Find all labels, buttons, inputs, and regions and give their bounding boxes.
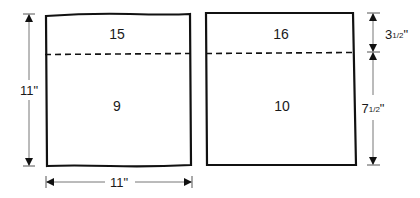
bottom-section-height-label: 71/2" [362, 100, 385, 117]
width-dimension-label: 11" [110, 174, 128, 191]
bottom-height-unit: " [380, 101, 385, 116]
right-top-section-label: 16 [273, 26, 289, 42]
section-height-dimension-arrows [367, 13, 380, 165]
left-top-section-label: 15 [109, 26, 125, 42]
bottom-height-fraction: 1/2 [369, 105, 380, 114]
top-height-fraction: 1/2 [392, 31, 403, 40]
top-section-height-label: 31/2" [385, 26, 408, 43]
left-bottom-section-label: 9 [113, 98, 121, 114]
top-height-unit: " [403, 27, 408, 42]
height-dimension-label: 11" [20, 82, 38, 99]
right-bottom-section-label: 10 [274, 98, 290, 114]
diagram-canvas [0, 0, 420, 198]
